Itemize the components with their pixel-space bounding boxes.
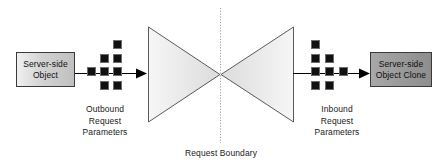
outbound-parameter-square-3 [87, 67, 96, 76]
inbound-parameter-square-4 [325, 67, 334, 76]
inbound-parameter-square-6 [311, 81, 320, 90]
outbound-arrow [75, 69, 147, 79]
server-side-object-clone-label: Server-side Object Clone [376, 59, 426, 81]
server-side-object-clone-node[interactable]: Server-side Object Clone [370, 52, 432, 87]
inbound-parameter-square-3 [311, 67, 320, 76]
server-side-object-node[interactable]: Server-side Object [16, 52, 75, 87]
server-side-object-label: Server-side Object [23, 59, 68, 81]
outbound-parameter-square-5 [113, 67, 122, 76]
inbound-parameter-square-1 [311, 54, 320, 63]
request-boundary-caption: Request Boundary [165, 148, 277, 160]
outbound-parameter-square-7 [113, 81, 122, 90]
inbound-parameter-square-5 [339, 67, 348, 76]
inbound-deserialization-triangle [221, 27, 294, 122]
outbound-serialization-triangle [149, 27, 221, 122]
outbound-parameter-square-1 [100, 54, 109, 63]
diagram-canvas: Server-side Object Server-side Object Cl… [0, 0, 441, 168]
inbound-request-parameters-caption: Inbound Request Parameters [294, 104, 380, 139]
outbound-parameter-square-4 [100, 67, 109, 76]
inbound-parameter-square-7 [325, 81, 334, 90]
outbound-parameter-square-0 [113, 40, 122, 49]
outbound-parameter-square-2 [113, 54, 122, 63]
outbound-parameter-square-6 [100, 81, 109, 90]
inbound-parameter-square-2 [325, 54, 334, 63]
inbound-parameter-square-0 [311, 40, 320, 49]
outbound-request-parameters-caption: Outbound Request Parameters [62, 104, 148, 139]
